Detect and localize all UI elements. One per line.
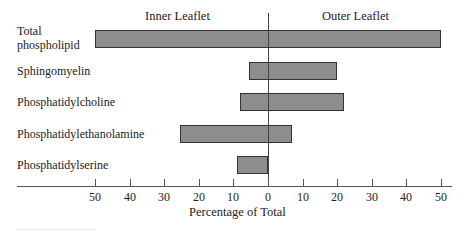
x-tick-label: 40 (391, 190, 421, 205)
x-tick-label: 10 (288, 190, 318, 205)
x-tick (164, 179, 165, 186)
x-tick (337, 179, 338, 186)
bar-phosphatidylcholine (240, 93, 344, 111)
x-tick-label: 20 (184, 190, 214, 205)
x-tick (199, 179, 200, 186)
x-tick (406, 179, 407, 186)
x-tick-label: 30 (149, 190, 179, 205)
footer-rule (16, 229, 94, 230)
category-label-total-line2: phospholipid (17, 38, 80, 52)
x-tick-label: 50 (426, 190, 456, 205)
x-tick-label: 30 (357, 190, 387, 205)
x-tick (130, 179, 131, 186)
category-label-total-line1: Total (17, 24, 42, 38)
category-label-phosphatidylcholine: Phosphatidylcholine (17, 95, 115, 109)
x-tick (441, 179, 442, 186)
zero-line (268, 13, 269, 186)
x-tick (372, 179, 373, 186)
x-tick-label: 20 (322, 190, 352, 205)
bar-phosphatidylserine (237, 156, 268, 174)
x-tick-label: 0 (253, 190, 283, 205)
category-label-phosphatidylethanolamine: Phosphatidylethanolamine (17, 127, 144, 141)
x-axis-line (17, 186, 452, 187)
x-tick (303, 179, 304, 186)
inner-leaflet-header: Inner Leaflet (145, 9, 210, 24)
outer-leaflet-header: Outer Leaflet (322, 9, 389, 24)
x-tick-label: 40 (115, 190, 145, 205)
x-tick (233, 179, 234, 186)
category-label-sphingomyelin: Sphingomyelin (17, 64, 90, 78)
x-tick-label: 10 (218, 190, 248, 205)
bar-sphingomyelin (249, 62, 337, 80)
x-axis-label: Percentage of Total (189, 205, 286, 220)
bar-phosphatidylethanolamine (180, 125, 292, 143)
category-label-phosphatidylserine: Phosphatidylserine (17, 158, 108, 172)
x-tick (268, 179, 269, 186)
x-tick-label: 50 (80, 190, 110, 205)
x-tick (95, 179, 96, 186)
